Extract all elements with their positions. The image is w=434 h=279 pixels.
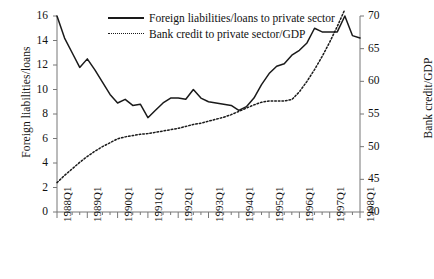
- y-axis-left-tick: 0: [24, 206, 48, 218]
- y-axis-left-tick: 12: [24, 59, 48, 71]
- x-axis-tick-label: 1995Q1: [273, 187, 285, 222]
- x-axis-tick-label: 1993Q1: [213, 187, 225, 222]
- y-axis-right-tick: 55: [368, 108, 392, 120]
- legend-entry-bank-credit: Bank credit to private sector/GDP: [108, 28, 306, 40]
- legend-entry-foreign-liabilities: Foreign liabilities/loans to private sec…: [108, 12, 335, 24]
- y-axis-left-tick: 10: [24, 84, 48, 96]
- x-axis-tick-label: 1988Q1: [61, 187, 73, 222]
- legend-label-foreign-liabilities: Foreign liabilities/loans to private sec…: [149, 12, 335, 24]
- y-axis-left-tick: 2: [24, 182, 48, 194]
- legend-swatch-solid: [108, 14, 144, 22]
- y-axis-left-tick: 4: [24, 157, 48, 169]
- x-axis-tick-label: 1998Q1: [364, 187, 376, 222]
- y-axis-left-tick: 6: [24, 133, 48, 145]
- legend-swatch-dotted: [108, 30, 144, 38]
- x-axis-tick-label: 1991Q1: [152, 187, 164, 222]
- x-axis-tick-label: 1994Q1: [243, 187, 255, 222]
- y-axis-left-tick: 14: [24, 35, 48, 47]
- legend-label-bank-credit: Bank credit to private sector/GDP: [149, 28, 306, 40]
- x-axis-tick-label: 1990Q1: [122, 187, 134, 222]
- x-axis-tick-label: 1997Q1: [334, 187, 346, 222]
- y-axis-left-tick: 16: [24, 10, 48, 22]
- y-axis-right-tick: 45: [368, 173, 392, 185]
- y-axis-left-tick: 8: [24, 108, 48, 120]
- y-axis-right-tick: 65: [368, 43, 392, 55]
- y-axis-right-tick: 50: [368, 141, 392, 153]
- x-axis-tick-label: 1996Q1: [303, 187, 315, 222]
- y-axis-right-tick: 60: [368, 75, 392, 87]
- x-axis-tick-label: 1992Q1: [182, 187, 194, 222]
- x-axis-tick-label: 1989Q1: [91, 187, 103, 222]
- y-axis-right-tick: 70: [368, 10, 392, 22]
